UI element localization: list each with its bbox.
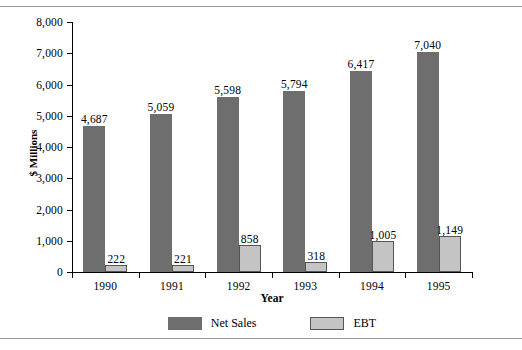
top-divider-rule <box>0 6 522 7</box>
x-axis-tick-label: 1994 <box>360 280 384 292</box>
bar-ebt-1991: 221 <box>172 265 194 272</box>
x-axis-title: Year <box>72 292 472 304</box>
bar-value-label: 221 <box>174 253 192 265</box>
plot-area: 01,0002,0003,0004,0005,0006,0007,0008,00… <box>72 22 472 272</box>
bar-value-label: 4,687 <box>81 113 108 125</box>
x-axis-tick-label: 1993 <box>293 280 317 292</box>
bar-ebt-1995: 1,149 <box>439 236 461 272</box>
y-axis-tick-label: 8,000 <box>36 16 63 28</box>
y-axis-title: $ Millions <box>27 130 39 177</box>
legend-item-ebt[interactable]: EBT <box>310 316 376 331</box>
bar-value-label: 5,598 <box>214 84 241 96</box>
bar-value-label: 5,059 <box>148 101 175 113</box>
chart-legend: Net SalesEBT <box>72 316 472 331</box>
bar-ebt-1994: 1,005 <box>372 241 394 272</box>
bar-net-sales-1990: 4,687 <box>83 126 105 272</box>
bar-value-label: 222 <box>107 253 125 265</box>
bar-net-sales-1992: 5,598 <box>217 97 239 272</box>
bar-ebt-1992: 858 <box>239 245 261 272</box>
bar-value-label: 858 <box>241 233 259 245</box>
x-axis-tick <box>472 272 473 278</box>
y-axis-tick <box>67 22 73 23</box>
y-axis-tick-label: 7,000 <box>36 47 63 59</box>
y-axis-tick <box>67 53 73 54</box>
legend-label: Net Sales <box>211 316 257 331</box>
y-axis-tick-label: 2,000 <box>36 204 63 216</box>
y-axis-tick-label: 6,000 <box>36 79 63 91</box>
y-axis-tick <box>67 210 73 211</box>
bar-value-label: 6,417 <box>348 58 375 70</box>
y-axis-tick <box>67 85 73 86</box>
x-axis-tick <box>339 272 340 278</box>
legend-swatch-icon <box>310 317 344 330</box>
y-axis-tick <box>67 241 73 242</box>
legend-label: EBT <box>353 316 376 331</box>
bottom-divider-rule <box>0 338 522 339</box>
bar-value-label: 1,149 <box>436 224 463 236</box>
y-axis-tick-label: 1,000 <box>36 235 63 247</box>
x-axis-tick <box>272 272 273 278</box>
x-axis-tick <box>139 272 140 278</box>
bar-ebt-1990: 222 <box>105 265 127 272</box>
bar-value-label: 318 <box>307 250 325 262</box>
legend-swatch-icon <box>168 317 202 330</box>
y-axis-tick-label: 4,000 <box>36 141 63 153</box>
chart-figure: $ Millions 01,0002,0003,0004,0005,0006,0… <box>0 0 522 350</box>
x-axis-tick <box>205 272 206 278</box>
bar-net-sales-1993: 5,794 <box>283 91 305 272</box>
legend-item-net-sales[interactable]: Net Sales <box>168 316 257 331</box>
y-axis-tick <box>67 178 73 179</box>
x-axis-tick <box>405 272 406 278</box>
x-axis-tick-label: 1995 <box>427 280 451 292</box>
x-axis-tick <box>72 272 73 278</box>
x-axis-tick-label: 1992 <box>227 280 251 292</box>
bar-net-sales-1994: 6,417 <box>350 71 372 272</box>
bar-value-label: 7,040 <box>414 39 441 51</box>
y-axis-tick-label: 3,000 <box>36 172 63 184</box>
bar-net-sales-1991: 5,059 <box>150 114 172 272</box>
bar-value-label: 5,794 <box>281 78 308 90</box>
bar-value-label: 1,005 <box>370 229 397 241</box>
bar-ebt-1993: 318 <box>305 262 327 272</box>
y-axis-tick <box>67 116 73 117</box>
x-axis-tick-label: 1990 <box>93 280 117 292</box>
x-axis-tick-label: 1991 <box>160 280 184 292</box>
bar-net-sales-1995: 7,040 <box>417 52 439 272</box>
y-axis-tick <box>67 147 73 148</box>
y-axis-tick-label: 5,000 <box>36 110 63 122</box>
y-axis-tick-label: 0 <box>57 266 63 278</box>
